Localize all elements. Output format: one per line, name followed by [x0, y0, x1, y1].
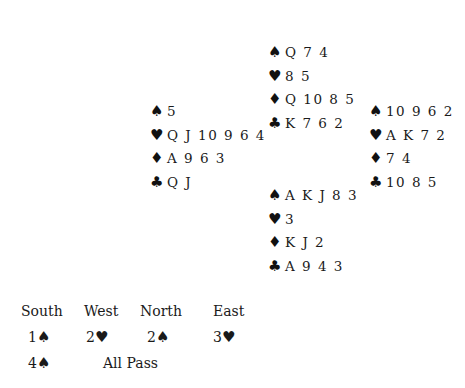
- spade-icon: ♠: [156, 328, 169, 346]
- south-diamonds-cards: K J 2: [285, 234, 325, 250]
- south-hearts: ♥3: [268, 208, 358, 232]
- east-hearts-cards: A K 7 2: [386, 127, 446, 143]
- south-clubs-cards: A 9 4 3: [285, 258, 344, 274]
- east-clubs: ♣10 8 5: [369, 171, 454, 195]
- header-north: North: [140, 298, 182, 324]
- north-hand: ♠Q 7 4 ♥8 5 ♦Q 10 8 5 ♣K 7 6 2: [268, 41, 355, 135]
- club-icon: ♣: [268, 112, 285, 136]
- west-hand: ♠5 ♥Q J 10 9 6 4 ♦A 9 6 3 ♣Q J: [150, 100, 266, 194]
- bid-south-1: 1♠: [28, 324, 50, 350]
- bid-all-pass: All Pass: [103, 350, 158, 376]
- bid-north-1: 2♠: [147, 324, 169, 350]
- diamond-icon: ♦: [369, 147, 386, 171]
- north-clubs-cards: K 7 6 2: [285, 115, 344, 131]
- south-hand: ♠A K J 8 3 ♥3 ♦K J 2 ♣A 9 4 3: [268, 184, 358, 278]
- club-icon: ♣: [369, 171, 386, 195]
- west-diamonds-cards: A 9 6 3: [167, 150, 226, 166]
- spade-icon: ♠: [369, 100, 386, 124]
- west-clubs: ♣Q J: [150, 171, 266, 195]
- west-hearts: ♥Q J 10 9 6 4: [150, 124, 266, 148]
- north-hearts-cards: 8 5: [285, 68, 311, 84]
- south-diamonds: ♦K J 2: [268, 231, 358, 255]
- south-spades-cards: A K J 8 3: [285, 187, 358, 203]
- bid-east-1: 3♥: [213, 324, 235, 350]
- diamond-icon: ♦: [150, 147, 167, 171]
- header-east: East: [213, 298, 244, 324]
- club-icon: ♣: [268, 255, 285, 279]
- east-hand: ♠10 9 6 2 ♥A K 7 2 ♦7 4 ♣10 8 5: [369, 100, 454, 194]
- west-clubs-cards: Q J: [167, 174, 192, 190]
- east-diamonds: ♦7 4: [369, 147, 454, 171]
- north-hearts: ♥8 5: [268, 65, 355, 89]
- spade-icon: ♠: [37, 354, 50, 372]
- header-west: West: [84, 298, 118, 324]
- north-spades: ♠Q 7 4: [268, 41, 355, 65]
- west-spades: ♠5: [150, 100, 266, 124]
- west-hearts-cards: Q J 10 9 6 4: [167, 127, 266, 143]
- south-spades: ♠A K J 8 3: [268, 184, 358, 208]
- west-spades-cards: 5: [167, 103, 177, 119]
- bid-south-2: 4♠: [28, 350, 50, 376]
- heart-icon: ♥: [268, 65, 285, 89]
- north-clubs: ♣K 7 6 2: [268, 112, 355, 136]
- spade-icon: ♠: [150, 100, 167, 124]
- heart-icon: ♥: [222, 328, 235, 346]
- heart-icon: ♥: [369, 124, 386, 148]
- north-diamonds: ♦Q 10 8 5: [268, 88, 355, 112]
- east-spades-cards: 10 9 6 2: [386, 103, 454, 119]
- north-spades-cards: Q 7 4: [285, 44, 329, 60]
- header-south: South: [21, 298, 63, 324]
- east-diamonds-cards: 7 4: [386, 150, 412, 166]
- east-hearts: ♥A K 7 2: [369, 124, 454, 148]
- spade-icon: ♠: [37, 328, 50, 346]
- spade-icon: ♠: [268, 184, 285, 208]
- club-icon: ♣: [150, 171, 167, 195]
- bid-west-1: 2♥: [86, 324, 108, 350]
- spade-icon: ♠: [268, 41, 285, 65]
- south-clubs: ♣A 9 4 3: [268, 255, 358, 279]
- diamond-icon: ♦: [268, 231, 285, 255]
- west-diamonds: ♦A 9 6 3: [150, 147, 266, 171]
- east-spades: ♠10 9 6 2: [369, 100, 454, 124]
- heart-icon: ♥: [150, 124, 167, 148]
- heart-icon: ♥: [95, 328, 108, 346]
- south-hearts-cards: 3: [285, 211, 295, 227]
- heart-icon: ♥: [268, 208, 285, 232]
- north-diamonds-cards: Q 10 8 5: [285, 91, 355, 107]
- diamond-icon: ♦: [268, 88, 285, 112]
- east-clubs-cards: 10 8 5: [386, 174, 438, 190]
